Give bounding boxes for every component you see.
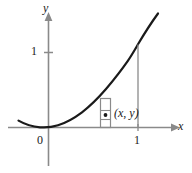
sample-point-dot [104,113,108,117]
x-tick-label-1: 1 [134,134,140,146]
sample-point-label: (x, y) [114,107,139,119]
origin-label: 0 [37,134,43,146]
y-axis [45,12,53,166]
graph-svg [0,0,192,173]
y-axis-label: y [43,2,48,14]
rectangle-strip [101,99,111,128]
x-axis-label: x [178,120,183,132]
y-tick-label-1: 1 [31,45,37,57]
math-figure-canvas: y x 0 1 1 (x, y) [0,0,192,173]
